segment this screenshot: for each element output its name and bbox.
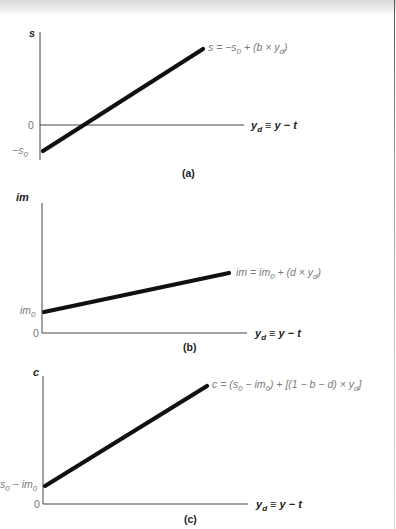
import-equation: im = im0 + (d × yd)	[236, 266, 321, 281]
x-axis-label: yd ≡ y − t	[254, 327, 302, 342]
consumption-line	[45, 386, 207, 486]
intercept-label: s0 − im0	[0, 478, 38, 493]
figure: s 0 −s0 s = −s0 + (b × yd) yd ≡ y − t (a…	[0, 0, 396, 529]
y-axis-label: s	[29, 27, 35, 39]
intercept-label: im0	[20, 304, 36, 319]
zero-tick-label: 0	[33, 327, 39, 339]
panel-label: (a)	[182, 167, 195, 179]
panel-b: im 0 im0 im = im0 + (d × yd) yd ≡ y − t …	[16, 191, 321, 353]
panel-a: s 0 −s0 s = −s0 + (b × yd) yd ≡ y − t (a…	[12, 27, 298, 179]
zero-tick-label: 0	[28, 119, 34, 131]
panel-c: c 0 s0 − im0 c = (s0 − im0) + [(1 − b − …	[0, 366, 362, 525]
consumption-equation: c = (s0 − im0) + [(1 − b − d) × yd]	[212, 378, 362, 393]
saving-line	[43, 49, 203, 151]
x-axis-label: yd ≡ y − t	[250, 119, 298, 134]
panel-label: (c)	[184, 513, 197, 525]
intercept-label: −s0	[12, 144, 28, 159]
x-axis-label: yd ≡ y − t	[255, 498, 303, 513]
y-axis-label: c	[33, 366, 39, 378]
y-axis-label: im	[16, 191, 29, 203]
panel-label: (b)	[183, 341, 196, 353]
saving-equation: s = −s0 + (b × yd)	[208, 41, 288, 56]
import-line	[44, 273, 229, 312]
zero-tick-label: 0	[34, 498, 40, 510]
